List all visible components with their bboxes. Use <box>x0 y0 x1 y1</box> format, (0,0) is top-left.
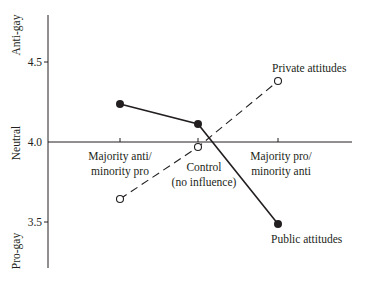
private-point-majority-anti <box>117 196 124 203</box>
y-tick-label-4-0: 4.0 <box>28 136 43 148</box>
category-label-majority-pro-line2: minority anti <box>251 165 311 178</box>
category-label-control: Control <box>186 161 221 173</box>
category-label-control-line2: (no influence) <box>172 176 237 189</box>
public-point-majority-pro <box>274 220 282 228</box>
category-label-majority-anti-line2: minority pro <box>91 165 149 178</box>
series-label-private: Private attitudes <box>272 62 347 74</box>
private-point-control <box>195 144 202 151</box>
category-label-majority-pro: Majority pro/ <box>250 150 312 163</box>
y-tick-label-4-5: 4.5 <box>28 56 43 68</box>
public-point-control <box>194 120 202 128</box>
y-label-pro-gay: Pro-gay <box>10 233 23 270</box>
y-tick-label-3-5: 3.5 <box>28 216 43 228</box>
attitude-line-chart: Anti-gay Neutral Pro-gay 4.5 4.0 3.5 Maj… <box>0 0 367 283</box>
category-label-majority-anti: Majority anti/ <box>88 150 152 163</box>
y-label-anti-gay: Anti-gay <box>10 14 23 55</box>
y-label-neutral: Neutral <box>10 126 22 160</box>
public-point-majority-anti <box>116 100 124 108</box>
series-label-public: Public attitudes <box>271 233 343 245</box>
private-point-majority-pro <box>275 78 282 85</box>
